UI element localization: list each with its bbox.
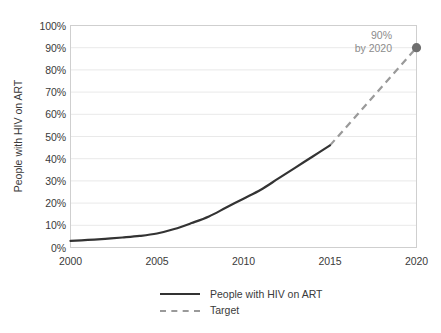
- legend-label-target: Target: [210, 304, 239, 316]
- series-actual-line: [71, 145, 331, 240]
- legend-swatch-dashed-icon: [160, 305, 200, 315]
- chart-legend: People with HIV on ART Target: [0, 286, 441, 318]
- legend-label-actual: People with HIV on ART: [210, 288, 322, 300]
- series-target-line: [330, 48, 417, 146]
- legend-item-target: Target: [0, 302, 441, 318]
- line-chart: People with HIV on ART 0%10%20%30%40%50%…: [0, 0, 441, 333]
- target-callout-line2: by 2020: [330, 42, 392, 55]
- legend-item-actual: People with HIV on ART: [0, 286, 441, 302]
- target-callout: 90% by 2020: [330, 29, 392, 55]
- gridlines: [71, 26, 417, 226]
- legend-swatch-solid-icon: [160, 289, 200, 299]
- target-endpoint-marker: [412, 43, 421, 52]
- target-callout-line1: 90%: [330, 29, 392, 42]
